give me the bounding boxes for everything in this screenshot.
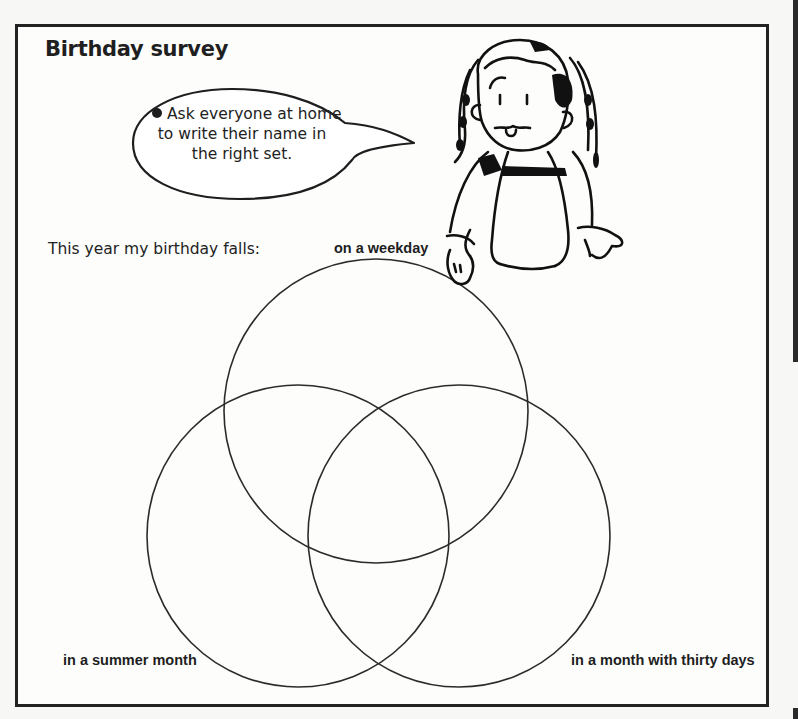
girl-illustration-icon [0,0,798,719]
